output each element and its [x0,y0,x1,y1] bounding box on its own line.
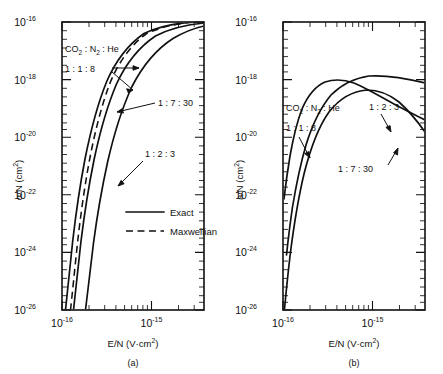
y-tick-label: 10-26 [235,303,257,316]
y-tick-label: 10-26 [14,303,36,316]
y-axis-right-ticks-a [195,22,204,310]
legend-label-exact: Exact [170,207,194,218]
ratio-label-1730-b: 1 : 7 : 30 [338,164,373,174]
curve-b-118 [284,80,425,199]
y-tick-label: 10-16 [14,15,36,28]
figure-root: 10-16 10-18 10-20 10-22 10-24 10-26 10-1… [0,0,443,374]
curve-exact-123 [86,26,205,310]
arrow-123-b [381,114,391,132]
y-tick-label: 10-18 [235,73,257,86]
panel-label-a: (a) [128,358,139,368]
y-tick-label: 10-24 [235,245,257,258]
arrow-123-a [118,161,143,186]
x-tick-labels-b: 10-16 10-15 [272,316,383,329]
x-tick-label: 10-16 [51,316,73,329]
mixture-header-a: CO2 : N2 : He [65,44,119,56]
panel-b: 10-16 10-18 10-20 10-22 10-24 10-26 10-1… [221,0,443,374]
legend-label-maxwellian: Maxwellian [170,226,217,237]
arrow-118-lower-a [112,72,133,93]
panel-b-svg: 10-16 10-18 10-20 10-22 10-24 10-26 10-1… [221,0,443,374]
x-tick-label: 10-16 [272,316,294,329]
panel-label-b: (b) [349,358,360,368]
x-tick-label: 10-15 [362,316,384,329]
mixture-header-b: CO2 : N2 : He [286,103,340,115]
arrow-1730-b [388,148,398,165]
y-tick-label: 10-20 [235,130,257,143]
y-axis-title-a: α/N (cm2) [12,160,24,200]
x-tick-label: 10-15 [141,316,163,329]
y-axis-title-b: a/N (cm2) [233,160,245,200]
ratio-label-1730-a: 1 : 7 : 30 [158,98,193,108]
ratio-label-123-a: 1 : 2 : 3 [145,149,175,159]
ratio-label-123-b: 1 : 2 : 3 [369,102,399,112]
x-tick-labels-a: 10-16 10-15 [51,316,162,329]
panel-a-svg: 10-16 10-18 10-20 10-22 10-24 10-26 10-1… [0,0,222,374]
y-tick-label: 10-20 [14,130,36,143]
y-tick-label: 10-16 [235,15,257,28]
y-tick-label: 10-18 [14,73,36,86]
x-axis-title-b: E/N (V·cm2) [329,337,380,349]
x-axis-title-a: E/N (V·cm2) [108,337,159,349]
ratio-label-118-b: 1 : 1 : 8 [286,123,316,133]
ratio-label-118-a: 1 : 1 : 8 [65,64,95,74]
y-axis-right-ticks-b [416,22,425,310]
panel-a: 10-16 10-18 10-20 10-22 10-24 10-26 10-1… [0,0,222,374]
y-tick-label: 10-24 [14,245,36,258]
